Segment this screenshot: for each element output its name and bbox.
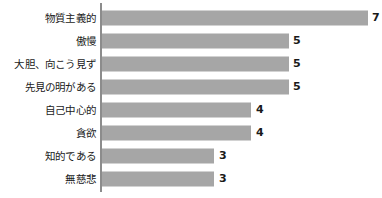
- bar-row: 大胆、向こう見ず 5: [0, 53, 382, 75]
- bar-segment: [102, 172, 214, 187]
- bar-segment: [102, 11, 368, 26]
- bar-segment: [102, 126, 251, 141]
- bar-value-label: 4: [256, 127, 264, 139]
- category-label: 自己中心的: [45, 104, 96, 116]
- bar-value-label: 4: [256, 104, 264, 116]
- bar-segment: [102, 34, 289, 49]
- category-label: 傲慢: [76, 35, 96, 47]
- bar-row: 物質主義的 7: [0, 7, 382, 29]
- bar-row: 知的である 3: [0, 145, 382, 167]
- bar-row: 傲慢 5: [0, 30, 382, 52]
- bar-value-label: 7: [372, 12, 380, 24]
- category-label: 先見の明がある: [25, 81, 96, 93]
- bar-segment: [102, 149, 214, 164]
- bar-value-label: 3: [219, 150, 227, 162]
- category-label: 貪欲: [76, 127, 96, 139]
- bar-row: 貪欲 4: [0, 122, 382, 144]
- bar-value-label: 5: [293, 81, 301, 93]
- category-label: 無慈悲: [65, 173, 96, 185]
- plot-area: 物質主義的 7 傲慢 5 大胆、向こう見ず 5 先見の明がある 5 自己中心的 …: [0, 0, 382, 198]
- category-label: 知的である: [45, 150, 96, 162]
- bar-value-label: 5: [293, 58, 301, 70]
- bar-value-label: 3: [219, 173, 227, 185]
- bar-row: 無慈悲 3: [0, 168, 382, 190]
- bar-row: 自己中心的 4: [0, 99, 382, 121]
- bar-row: 先見の明がある 5: [0, 76, 382, 98]
- bar-segment: [102, 57, 289, 72]
- bar-chart: 物質主義的 7 傲慢 5 大胆、向こう見ず 5 先見の明がある 5 自己中心的 …: [0, 0, 382, 198]
- category-label: 大胆、向こう見ず: [14, 58, 96, 70]
- bar-segment: [102, 103, 251, 118]
- category-label: 物質主義的: [45, 12, 96, 24]
- bar-value-label: 5: [293, 35, 301, 47]
- bar-segment: [102, 80, 289, 95]
